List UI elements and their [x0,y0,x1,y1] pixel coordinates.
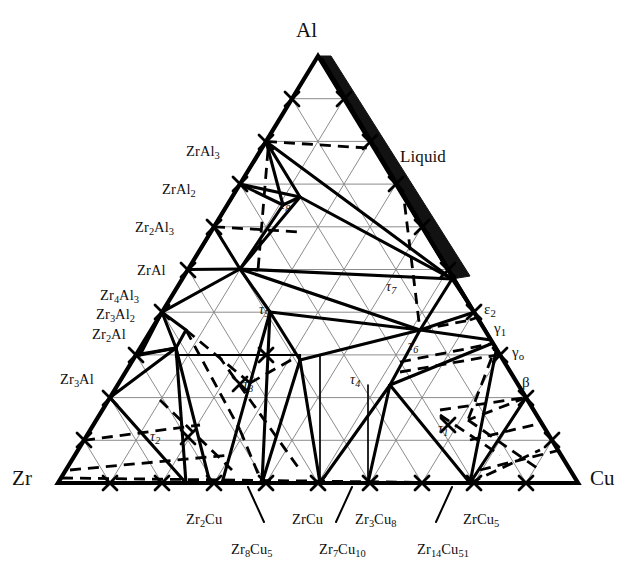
phase-label-beta: β [522,375,530,390]
region-label-liquid: Liquid [400,148,446,165]
phase-label-tau3: τ3 [243,378,253,394]
phase-label-zr3al: Zr3Al [60,372,94,389]
phase-label-tau6: τ6 [408,339,418,355]
phase-label-tau4: τ4 [350,373,360,389]
bottom-label-leaders [248,487,452,522]
phase-label-zral3: ZrAl3 [186,144,220,161]
phase-label-zrcu: ZrCu [292,512,323,527]
phase-label-tau8: τ8 [280,198,290,214]
phase-label-tau1: τ1 [438,422,448,438]
phase-label-zr14cu51: Zr14Cu51 [417,542,469,559]
phase-label-zrcu5: ZrCu5 [463,512,499,529]
phase-label-gamma1: γ1 [494,321,506,338]
phase-label-zral2: ZrAl2 [162,182,196,199]
phase-label-zr2cu: Zr2Cu [186,512,222,529]
ternary-diagram-canvas [0,0,634,575]
phase-label-tau2: τ2 [150,430,160,446]
phase-label-zr3al2: Zr3Al2 [96,307,135,324]
phase-label-zral: ZrAl [137,263,166,278]
corner-label-cu: Cu [590,468,615,489]
corner-label-zr: Zr [12,468,32,489]
corner-label-al: Al [296,20,317,41]
phase-label-gamma0: γo [512,345,524,362]
phase-label-zr3cu8: Zr3Cu8 [355,512,396,529]
phase-label-zr2al: Zr2Al [92,327,126,344]
phase-label-zr8cu5: Zr8Cu5 [231,542,272,559]
phase-label-epsilon2: ε2 [484,302,496,319]
phase-label-tau7: τ7 [386,280,396,296]
phase-label-zr2al3: Zr2Al3 [135,220,174,237]
phase-label-zr7cu10: Zr7Cu10 [319,542,366,559]
phase-label-tau5: τ5 [259,303,269,319]
ternary-phase-diagram-figure: { "figure": { "type": "ternary-phase-dia… [0,0,634,575]
phase-label-zr4al3: Zr4Al3 [100,288,139,305]
